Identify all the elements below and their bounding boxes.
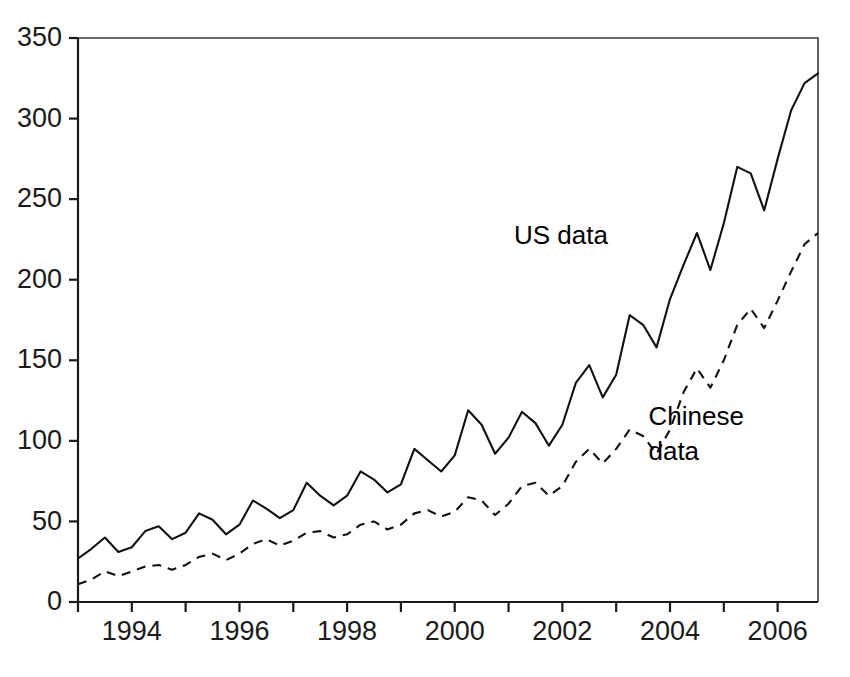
y-axis-tick-labels: 050100150200250300350 xyxy=(17,22,62,616)
y-tick-label: 350 xyxy=(17,22,62,52)
y-tick-label: 50 xyxy=(32,506,62,536)
y-tick-label: 100 xyxy=(17,425,62,455)
x-tick-label: 2000 xyxy=(425,616,485,646)
x-tick-label: 2006 xyxy=(748,616,808,646)
chart-canvas: 050100150200250300350 199419961998200020… xyxy=(0,0,850,677)
y-tick-label: 0 xyxy=(47,586,62,616)
y-tick-label: 150 xyxy=(17,344,62,374)
tick-marks xyxy=(69,38,778,612)
x-tick-label: 1994 xyxy=(102,616,162,646)
x-tick-label: 1998 xyxy=(317,616,377,646)
y-tick-label: 250 xyxy=(17,183,62,213)
series-line-us-data xyxy=(78,73,818,558)
x-tick-label: 2002 xyxy=(532,616,592,646)
x-tick-label: 1996 xyxy=(209,616,269,646)
x-tick-label: 2004 xyxy=(640,616,700,646)
chinese-data-label-line1: Chinese xyxy=(648,401,743,431)
x-axis-tick-labels: 1994199619982000200220042006 xyxy=(102,616,808,646)
y-tick-label: 300 xyxy=(17,103,62,133)
data-series xyxy=(78,73,818,584)
axes xyxy=(78,38,818,602)
us-data-label: US data xyxy=(514,220,608,250)
chinese-data-label-line2: data xyxy=(648,436,699,466)
line-chart: 050100150200250300350 199419961998200020… xyxy=(0,0,850,677)
plot-frame xyxy=(78,38,818,602)
y-tick-label: 200 xyxy=(17,264,62,294)
